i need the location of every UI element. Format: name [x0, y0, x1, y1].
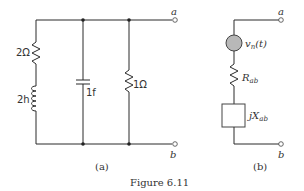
terminal-b-icon	[173, 142, 178, 147]
panel-a-label: (a)	[95, 161, 109, 172]
figure-canvas: 2Ω 2h 1f 1Ω a b (a)	[0, 0, 304, 191]
resistor-2ohm-label: 2Ω	[16, 47, 30, 58]
reactance-label: jXab	[247, 110, 268, 123]
inductor-2h-icon	[32, 86, 37, 111]
circuit-b: a b vn(t) Rab jXab (b)	[222, 6, 284, 172]
panel-b-label: (b)	[253, 161, 267, 172]
resistor-rab-label: Rab	[241, 72, 259, 85]
terminal-a-label: a	[171, 6, 177, 17]
capacitor-1f-label: 1f	[86, 87, 96, 98]
circuit-a: 2Ω 2h 1f 1Ω a b (a)	[16, 6, 177, 172]
reactance-box-icon	[222, 104, 245, 127]
terminal-b-label: b	[170, 149, 176, 160]
terminal-a-icon	[173, 18, 178, 23]
junction-dot	[127, 142, 131, 146]
resistor-1ohm-label: 1Ω	[133, 79, 147, 90]
terminal-b-icon	[279, 142, 284, 147]
terminal-a-label: a	[278, 6, 284, 17]
bottom-wire-b	[234, 127, 280, 144]
terminal-b-label: b	[278, 149, 284, 160]
top-wire-b	[234, 20, 280, 35]
noise-source-label: vn(t)	[245, 38, 267, 51]
resistor-2ohm-icon	[32, 42, 40, 64]
resistor-1ohm-icon	[125, 70, 133, 92]
junction-dot	[81, 142, 85, 146]
inductor-2h-label: 2h	[17, 94, 30, 105]
junction-dot	[127, 18, 131, 22]
noise-source-icon	[226, 35, 242, 51]
terminal-a-icon	[279, 18, 284, 23]
figure-caption: Figure 6.11	[130, 177, 189, 188]
resistor-rab-icon	[230, 64, 238, 86]
junction-dot	[81, 18, 85, 22]
